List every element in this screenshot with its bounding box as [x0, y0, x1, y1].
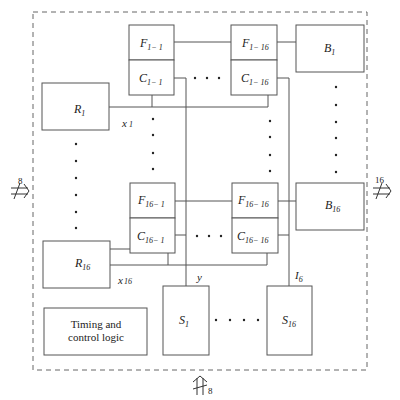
- bus-input-bottom: 8: [193, 376, 213, 396]
- label-x1: x1: [121, 117, 133, 129]
- bus-input-left: 8: [11, 176, 29, 199]
- bus-width-bottom: 8: [208, 386, 213, 396]
- ellipsis-selectors: [215, 319, 259, 321]
- ellipsis-row1: [194, 77, 220, 79]
- ellipsis-registers: [75, 143, 77, 229]
- wire-y-bus: [174, 78, 186, 286]
- label-y: y: [196, 271, 202, 283]
- ellipsis-col16: [269, 120, 271, 172]
- timing-label-line1: Timing and: [71, 318, 122, 330]
- label-i6: I6: [294, 269, 303, 284]
- wire-i6-bus: [277, 78, 289, 286]
- ellipsis-col1: [152, 118, 154, 170]
- ellipsis-row16: [196, 235, 222, 237]
- timing-label-line2: control logic: [68, 331, 124, 343]
- bus-output-right: 16: [373, 175, 391, 199]
- label-x16: x16: [117, 274, 132, 286]
- ellipsis-buffers: [335, 86, 337, 173]
- block-diagram: F1− 1 C1− 1 F1− 16 C1− 16 B1 R1 x1 F16− …: [0, 0, 400, 400]
- bus-width-left: 8: [18, 176, 23, 186]
- bus-width-right: 16: [375, 175, 385, 185]
